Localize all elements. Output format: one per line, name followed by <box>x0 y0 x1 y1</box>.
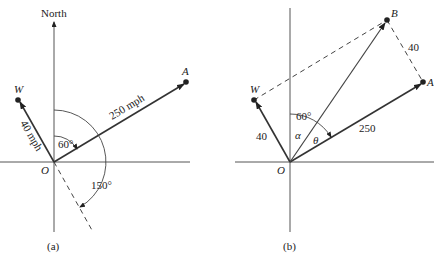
plane-magnitude-label: 250 <box>359 122 376 134</box>
point-b-dot <box>384 17 390 23</box>
point-w-dot-b <box>251 97 257 103</box>
caption-b: (b) <box>283 240 296 253</box>
point-b-label: B <box>391 7 398 19</box>
plane-vector-b <box>290 84 421 162</box>
point-w-label: W <box>14 83 24 95</box>
origin-label-b: O <box>277 164 285 176</box>
plane-vector <box>54 84 184 162</box>
caption-a: (a) <box>47 240 60 253</box>
point-w-label-b: W <box>250 83 260 95</box>
angle-150-arc <box>54 110 106 207</box>
point-a-dot-b <box>420 79 426 85</box>
point-w-dot <box>15 97 21 103</box>
side-ab-label: 40 <box>408 41 420 53</box>
angle-150-label: 150° <box>91 179 112 191</box>
origin-label: O <box>41 164 49 176</box>
angle-alpha-label: α <box>295 129 301 141</box>
angle-60-label-b: 60° <box>296 110 311 122</box>
angle-60-label: 60° <box>58 138 73 150</box>
figure-b: W A B O 40 250 40 60° α θ (b) <box>235 7 434 253</box>
point-a-dot <box>183 79 189 85</box>
point-a-label: A <box>181 65 189 77</box>
north-label: North <box>41 7 67 19</box>
resultant-vector-b <box>290 23 385 162</box>
wind-speed-label: 40 mph <box>18 118 45 153</box>
point-a-label-b: A <box>426 76 434 88</box>
vector-diagram: North W A O 40 mph 250 mph 60° 150° (a) <box>0 0 434 255</box>
dashed-side-wb <box>254 20 387 100</box>
angle-theta-label: θ <box>313 134 319 146</box>
plane-speed-label: 250 mph <box>107 91 147 122</box>
wind-direction-dashed-line <box>54 162 93 232</box>
wind-magnitude-label: 40 <box>256 130 268 142</box>
figure-a: North W A O 40 mph 250 mph 60° 150° (a) <box>0 7 190 253</box>
